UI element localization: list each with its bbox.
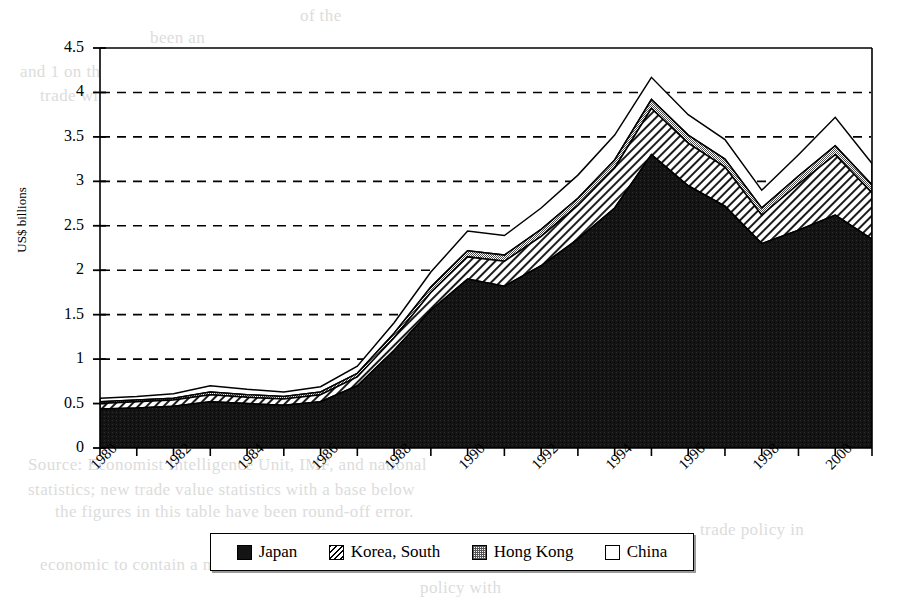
y-axis-tick-label: 3 [42,172,84,188]
legend-item-hong-kong: Hong Kong [472,542,574,562]
legend-label-hong-kong: Hong Kong [494,542,574,562]
y-axis-tick-label: 3.5 [42,128,84,144]
legend-item-japan: Japan [237,542,298,562]
legend-item-china: China [605,542,668,562]
y-axis-tick-label: 4 [42,83,84,99]
legend-swatch-hong-kong [472,545,487,560]
legend-label-korea-south: Korea, South [351,542,441,562]
legend-label-japan: Japan [259,542,298,562]
y-axis-title: US$ billions [14,160,30,280]
legend-swatch-china [605,545,620,560]
legend-swatch-japan [237,545,252,560]
legend-label-china: China [627,542,668,562]
y-axis-tick-label: 4.5 [42,39,84,55]
y-axis-tick-label: 2 [42,261,84,277]
chart-legend: Japan Korea, South Hong Kong China [210,533,694,571]
legend-item-korea-south: Korea, South [329,542,441,562]
y-axis-tick-label: 1.5 [42,306,84,322]
y-axis-tick-label: 1 [42,350,84,366]
y-axis-tick-label: 2.5 [42,217,84,233]
stacked-area-chart [0,0,904,600]
page-root: of thebeen anand 1 on the 1990s wastrade… [0,0,904,600]
y-axis-tick-label: 0.5 [42,395,84,411]
legend-swatch-korea-south [329,545,344,560]
y-axis-tick-label: 0 [42,439,84,455]
